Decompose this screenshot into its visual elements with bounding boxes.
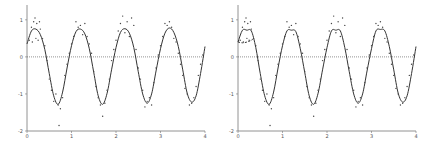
data-point bbox=[375, 23, 376, 24]
data-point bbox=[51, 90, 52, 91]
data-point bbox=[126, 21, 127, 22]
x-tick-label: 3 bbox=[370, 133, 373, 139]
data-point bbox=[124, 32, 125, 33]
y-tick-label: 1 bbox=[231, 17, 234, 23]
data-point bbox=[191, 103, 192, 104]
data-point bbox=[393, 75, 394, 76]
data-point bbox=[395, 88, 396, 89]
data-point bbox=[311, 104, 312, 105]
data-point bbox=[346, 49, 347, 50]
data-point bbox=[355, 106, 356, 107]
y-tick-label: 0 bbox=[231, 54, 234, 60]
data-point bbox=[304, 71, 305, 72]
data-point bbox=[29, 40, 30, 41]
data-point bbox=[240, 40, 241, 41]
data-point bbox=[293, 34, 294, 35]
data-point bbox=[413, 54, 414, 55]
data-point bbox=[73, 36, 74, 37]
data-point bbox=[151, 104, 152, 105]
data-point bbox=[84, 23, 85, 24]
data-point bbox=[349, 67, 350, 68]
data-point bbox=[245, 17, 246, 18]
data-point bbox=[169, 21, 170, 22]
y-tick-label: 0 bbox=[20, 54, 23, 60]
data-point bbox=[93, 71, 94, 72]
data-point bbox=[198, 75, 199, 76]
data-point bbox=[104, 103, 105, 104]
data-point bbox=[164, 23, 165, 24]
data-point bbox=[306, 86, 307, 87]
data-point bbox=[250, 21, 251, 22]
data-point bbox=[243, 41, 244, 42]
data-point bbox=[195, 86, 196, 87]
data-point bbox=[57, 104, 58, 105]
data-point bbox=[242, 27, 243, 28]
data-point bbox=[32, 41, 33, 42]
data-point bbox=[166, 25, 167, 26]
data-point bbox=[380, 21, 381, 22]
data-point bbox=[77, 27, 78, 28]
data-point bbox=[257, 60, 258, 61]
data-point bbox=[34, 17, 35, 18]
data-point bbox=[138, 67, 139, 68]
data-point bbox=[386, 41, 387, 42]
data-point bbox=[31, 27, 32, 28]
x-tick-label: 1 bbox=[281, 133, 284, 139]
data-point bbox=[111, 60, 112, 61]
data-point bbox=[86, 36, 87, 37]
data-point bbox=[337, 21, 338, 22]
data-point bbox=[64, 75, 65, 76]
data-point bbox=[95, 86, 96, 87]
data-point bbox=[39, 21, 40, 22]
data-point bbox=[389, 52, 390, 53]
data-point bbox=[133, 25, 134, 26]
data-point bbox=[149, 97, 150, 98]
data-point bbox=[260, 78, 261, 79]
data-point bbox=[106, 90, 107, 91]
data-point bbox=[351, 78, 352, 79]
data-point bbox=[160, 45, 161, 46]
data-point bbox=[247, 23, 248, 24]
data-point bbox=[377, 25, 378, 26]
data-point bbox=[173, 38, 174, 39]
data-point bbox=[44, 45, 45, 46]
data-point bbox=[404, 97, 405, 98]
data-point bbox=[182, 75, 183, 76]
x-tick-label: 3 bbox=[159, 133, 162, 139]
plot-area: 10-1-201234 bbox=[0, 0, 218, 145]
data-point bbox=[384, 38, 385, 39]
data-point bbox=[66, 64, 67, 65]
data-point bbox=[360, 97, 361, 98]
y-tick-label: -1 bbox=[18, 91, 23, 97]
data-point bbox=[98, 97, 99, 98]
data-point bbox=[302, 52, 303, 53]
fit-line bbox=[27, 28, 205, 104]
data-point bbox=[271, 108, 272, 109]
data-point bbox=[171, 27, 172, 28]
data-point bbox=[89, 43, 90, 44]
data-point bbox=[118, 30, 119, 31]
data-point bbox=[291, 25, 292, 26]
data-point bbox=[244, 21, 245, 22]
data-point bbox=[158, 54, 159, 55]
x-tick-label: 2 bbox=[325, 133, 328, 139]
data-point bbox=[46, 60, 47, 61]
data-point bbox=[62, 97, 63, 98]
data-point bbox=[344, 25, 345, 26]
data-point bbox=[75, 21, 76, 22]
data-point bbox=[102, 115, 103, 116]
data-point bbox=[295, 23, 296, 24]
data-point bbox=[251, 28, 252, 29]
data-point bbox=[255, 45, 256, 46]
x-tick-label: 4 bbox=[414, 133, 417, 139]
data-point bbox=[300, 43, 301, 44]
data-point bbox=[284, 36, 285, 37]
data-point bbox=[269, 125, 270, 126]
y-tick-label: -2 bbox=[229, 128, 234, 134]
data-point bbox=[146, 101, 147, 102]
y-tick-label: -2 bbox=[18, 128, 23, 134]
data-point bbox=[140, 78, 141, 79]
data-point bbox=[402, 103, 403, 104]
data-point bbox=[411, 64, 412, 65]
data-point bbox=[175, 41, 176, 42]
